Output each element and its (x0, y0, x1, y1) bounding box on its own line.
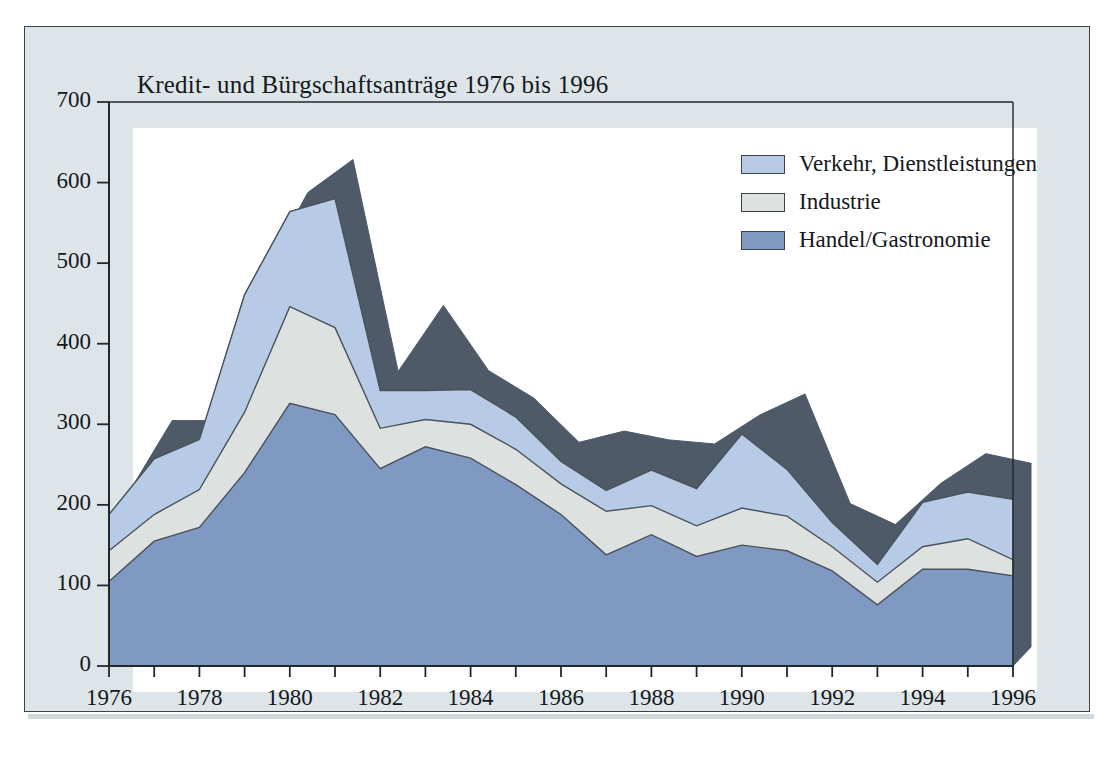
legend-item-handel: Handel/Gastronomie (741, 227, 1037, 253)
chart-page: Kredit- und Bürgschaftsanträge 1976 bis … (0, 0, 1119, 766)
y-axis-label-500: 500 (19, 248, 91, 274)
y-axis-label-700: 700 (19, 87, 91, 113)
legend-label-industrie: Industrie (799, 189, 881, 215)
y-axis-label-200: 200 (19, 490, 91, 516)
x-axis-label-1994: 1994 (878, 685, 968, 711)
y-axis-label-600: 600 (19, 168, 91, 194)
x-axis-label-1976: 1976 (64, 685, 154, 711)
legend-swatch-industrie (741, 193, 785, 212)
legend-label-verkehr: Verkehr, Dienstleistungen (799, 151, 1037, 177)
chart-svg (1, 1, 1119, 766)
x-axis-label-1986: 1986 (516, 685, 606, 711)
x-axis-label-1992: 1992 (787, 685, 877, 711)
chart-panel: Kredit- und Bürgschaftsanträge 1976 bis … (24, 26, 1090, 712)
x-axis-label-1988: 1988 (606, 685, 696, 711)
x-axis-label-1996: 1996 (968, 685, 1058, 711)
y-axis-label-0: 0 (19, 651, 91, 677)
legend-label-handel: Handel/Gastronomie (799, 227, 991, 253)
x-axis-label-1990: 1990 (697, 685, 787, 711)
x-axis-label-1980: 1980 (245, 685, 335, 711)
legend-item-verkehr: Verkehr, Dienstleistungen (741, 151, 1037, 177)
y-axis-label-300: 300 (19, 409, 91, 435)
y-axis-label-100: 100 (19, 570, 91, 596)
legend-swatch-verkehr (741, 155, 785, 174)
legend-swatch-handel (741, 231, 785, 250)
x-axis-label-1978: 1978 (154, 685, 244, 711)
x-axis-label-1984: 1984 (426, 685, 516, 711)
x-axis-label-1982: 1982 (335, 685, 425, 711)
legend-item-industrie: Industrie (741, 189, 1037, 215)
y-axis-label-400: 400 (19, 329, 91, 355)
chart-legend: Verkehr, Dienstleistungen Industrie Hand… (741, 151, 1037, 265)
series-3d-right-face (1013, 463, 1031, 666)
